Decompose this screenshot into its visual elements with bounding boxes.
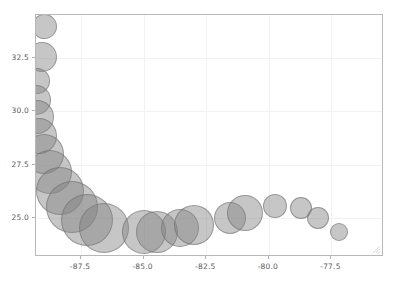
- y-tick-mark: [32, 57, 35, 58]
- bubble-chart-figure: 25.027.530.032.5 -87.5-85.0-82.5-80.0-77…: [0, 0, 398, 281]
- y-tick-label: 27.5: [0, 159, 29, 168]
- x-tick-mark: [330, 256, 331, 259]
- resize-grip-icon[interactable]: [372, 245, 381, 254]
- gridline-horizontal: [36, 165, 382, 166]
- gridline-vertical: [269, 15, 270, 255]
- gridline-horizontal: [36, 58, 382, 59]
- x-tick-mark: [205, 256, 206, 259]
- gridline-vertical: [331, 15, 332, 255]
- bubble-marker: [35, 14, 57, 39]
- bubble-marker: [174, 205, 214, 245]
- bubble-marker: [263, 194, 287, 218]
- y-tick-label: 32.5: [0, 52, 29, 61]
- plot-area: [35, 14, 383, 256]
- bubble-marker: [307, 207, 329, 229]
- y-tick-label: 25.0: [0, 213, 29, 222]
- x-tick-label: -85.0: [132, 262, 152, 271]
- bubble-marker: [35, 42, 57, 72]
- y-tick-mark: [32, 164, 35, 165]
- x-tick-mark: [80, 256, 81, 259]
- bubble-marker: [330, 223, 348, 241]
- y-tick-mark: [32, 217, 35, 218]
- y-tick-mark: [32, 110, 35, 111]
- x-tick-label: -87.5: [70, 262, 90, 271]
- x-tick-label: -77.5: [320, 262, 340, 271]
- bubble-marker: [227, 195, 263, 231]
- bubble-marker: [79, 203, 129, 253]
- x-tick-label: -82.5: [195, 262, 215, 271]
- x-tick-mark: [268, 256, 269, 259]
- y-tick-label: 30.0: [0, 106, 29, 115]
- gridline-horizontal: [36, 111, 382, 112]
- x-tick-label: -80.0: [258, 262, 278, 271]
- x-tick-mark: [143, 256, 144, 259]
